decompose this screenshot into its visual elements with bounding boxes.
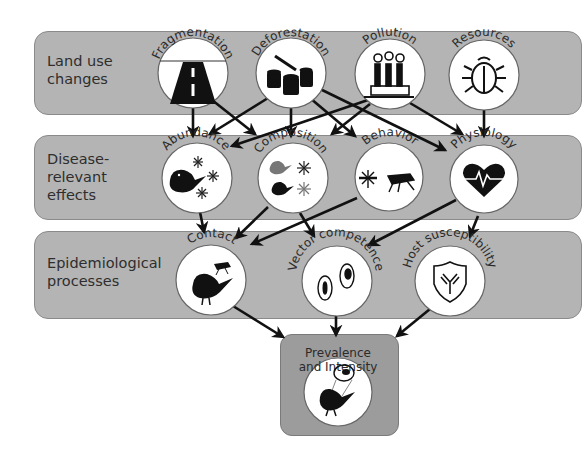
title-contact: Contact bbox=[185, 226, 241, 247]
diagram-canvas: Fragmentation Deforestation Pollution Re… bbox=[0, 0, 586, 453]
svg-text:Contact: Contact bbox=[185, 226, 241, 247]
title-prevalence: Prevalence bbox=[305, 346, 371, 360]
arrows-land-to-effects bbox=[193, 88, 484, 150]
